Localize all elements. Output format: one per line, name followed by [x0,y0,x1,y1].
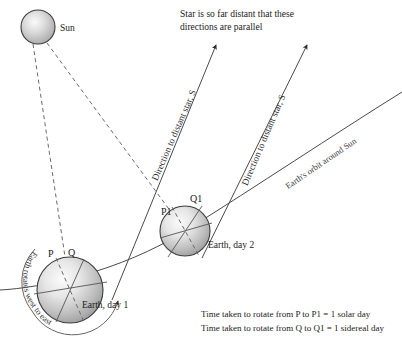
sun-to-earth-day2-line [47,43,185,231]
star-distance-note-line2: directions are parallel [180,22,263,32]
earth-day1-label: Earth, day 1 [82,300,128,310]
diagram-canvas: Sun P Q P1 Q1 Earth, day 1 Earth, day 2 … [0,0,402,349]
point-p-label: P [48,248,54,259]
point-q1-label: Q1 [190,193,202,204]
footnote-solar-day: Time taken to rotate from P to P1 = 1 so… [201,309,371,319]
star-distance-note-line1: Star is so far distant that these [180,9,294,19]
sun-body [21,10,55,44]
astronomy-diagram: Sun P Q P1 Q1 Earth, day 1 Earth, day 2 … [0,0,402,349]
direction-to-star-left-label: Direction to distant star, S [150,88,198,182]
earth-day2-label: Earth, day 2 [208,240,254,250]
direction-to-star-right-label: Direction to distant star, S [240,93,288,187]
sun-label: Sun [60,23,75,33]
footnote-sidereal-day: Time taken to rotate from Q to Q1 = 1 si… [201,323,384,333]
point-p1-label: P1 [161,206,172,217]
point-q-label: Q [68,247,76,258]
direction-to-star-arrow-left [112,45,216,300]
